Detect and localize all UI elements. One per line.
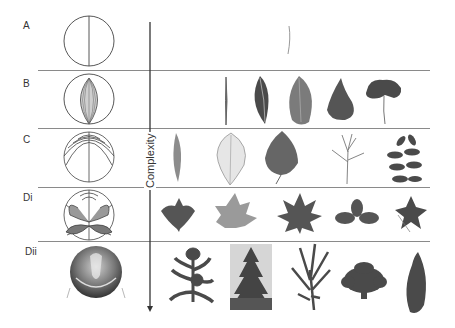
leaf-c-netted [217,133,245,185]
shoot-dii-bromeliad [292,244,330,310]
leaf-a-needle [288,26,290,54]
leaf-b-ovate [327,78,354,120]
leaf-b-grass [226,77,228,125]
leaf-b-lanceolate [255,76,269,124]
venation-circle-a [64,16,114,66]
complexity-axis-label: Complexity [144,132,156,190]
flower-dii-rosette [341,262,387,299]
leaf-c-shoot [332,134,364,184]
leaf-c-narrow [173,133,181,182]
leaf-di-trifoliate [335,199,379,224]
leaf-di-maple [215,193,257,228]
leaf-c-pinnate [387,133,422,182]
leaf-b-ginkgo [366,80,401,124]
photo-dii-conifer [230,244,272,310]
leaf-b-elliptic [289,76,312,125]
pod-dii-curved [406,252,426,313]
leaf-c-birch [265,131,298,184]
leaf-di-palmately-lobed [395,196,427,232]
venation-sphere-dii [67,246,125,298]
figure-canvas [0,0,455,328]
shoot-dii-succulent [170,248,213,302]
venation-circle-di [64,190,114,240]
venation-circle-c [64,132,114,182]
venation-circle-b [64,74,114,124]
leaf-di-palmate [277,193,322,234]
leaf-di-three-lobed [161,198,195,232]
